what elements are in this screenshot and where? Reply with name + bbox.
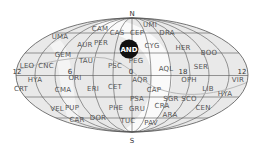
constellation-label-ser[interactable]: SER (194, 63, 208, 71)
constellation-label-cen[interactable]: CEN (195, 104, 210, 112)
constellation-label-vel[interactable]: VEL (50, 105, 64, 113)
constellation-label-boo[interactable]: BOO (201, 49, 218, 57)
constellation-label-cyg[interactable]: CYG (144, 42, 159, 50)
sky-map: N S 12601812 CAMUMIUMACASCEPDRAAURPERCYG… (0, 0, 259, 151)
constellation-label-eri[interactable]: ERI (87, 85, 99, 93)
constellation-label-ara[interactable]: ARA (163, 111, 178, 119)
hour-label: 12 (238, 68, 247, 76)
constellation-label-cma[interactable]: CMA (55, 86, 71, 94)
constellation-label-pup[interactable]: PUP (65, 104, 79, 112)
constellation-label-sco[interactable]: SCO (181, 95, 197, 103)
constellation-label-uma[interactable]: UMA (52, 33, 69, 41)
constellation-label-cap[interactable]: CAP (147, 86, 162, 94)
constellation-label-dra[interactable]: DRA (159, 29, 174, 37)
constellation-label-aql[interactable]: AQL (159, 65, 174, 73)
constellation-label-ori[interactable]: ORI (68, 74, 81, 82)
constellation-label-hya[interactable]: HYA (28, 76, 42, 84)
constellation-label-phe[interactable]: PHE (109, 104, 124, 112)
constellation-label-car[interactable]: CAR (69, 116, 84, 124)
constellation-label-cas[interactable]: CAS (110, 29, 125, 37)
north-pole-label: N (129, 10, 134, 18)
constellation-label-cnc[interactable]: CNC (38, 62, 54, 70)
constellation-label-oph[interactable]: OPH (181, 76, 197, 84)
constellation-label-gem[interactable]: GEM (55, 51, 72, 59)
constellation-label-hya[interactable]: HYA (218, 90, 232, 98)
highlight-label: AND (120, 46, 137, 54)
constellation-label-lib[interactable]: LIB (202, 85, 213, 93)
constellation-label-cet[interactable]: CET (108, 83, 123, 91)
highlighted-constellation[interactable]: AND (120, 40, 139, 59)
constellation-label-tuc[interactable]: TUC (120, 117, 136, 125)
constellation-label-cra[interactable]: CRA (155, 102, 170, 110)
constellation-label-crt[interactable]: CRT (14, 85, 29, 93)
constellation-label-psa[interactable]: PSA (130, 95, 144, 103)
constellation-label-psc[interactable]: PSC (108, 62, 122, 70)
hour-label: 18 (179, 68, 188, 76)
constellation-label-aqr[interactable]: AQR (132, 76, 148, 84)
constellation-label-dor[interactable]: DOR (90, 114, 106, 122)
constellation-label-per[interactable]: PER (94, 39, 108, 47)
constellation-label-tau[interactable]: TAU (78, 57, 93, 65)
constellation-label-pav[interactable]: PAV (144, 119, 158, 127)
constellation-label-cam[interactable]: CAM (92, 25, 108, 33)
hour-label: 0 (129, 68, 133, 76)
constellation-label-umi[interactable]: UMI (143, 21, 157, 29)
constellation-label-gru[interactable]: GRU (129, 105, 145, 113)
constellation-label-aur[interactable]: AUR (77, 41, 92, 49)
constellation-label-vir[interactable]: VIR (232, 76, 244, 84)
constellation-label-leo[interactable]: LEO (20, 62, 35, 70)
south-pole-label: S (130, 137, 135, 145)
constellation-label-cep[interactable]: CEP (130, 29, 144, 37)
constellation-label-her[interactable]: HER (175, 44, 190, 52)
